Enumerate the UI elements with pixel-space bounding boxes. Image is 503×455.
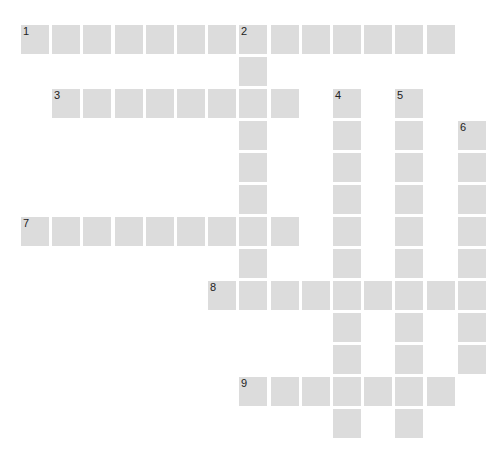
crossword-cell[interactable]: [146, 89, 174, 118]
crossword-cell[interactable]: [333, 345, 361, 374]
crossword-cell[interactable]: [333, 377, 361, 406]
crossword-cell[interactable]: [395, 409, 423, 438]
crossword-cell[interactable]: 5: [395, 89, 423, 118]
crossword-cell[interactable]: [302, 25, 330, 54]
crossword-cell[interactable]: 2: [239, 25, 267, 54]
crossword-cell[interactable]: [364, 281, 392, 310]
crossword-cell[interactable]: [395, 313, 423, 342]
crossword-cell[interactable]: [83, 217, 111, 246]
crossword-cell[interactable]: [177, 25, 205, 54]
crossword-cell[interactable]: [333, 281, 361, 310]
crossword-cell[interactable]: [395, 249, 423, 278]
crossword-cell[interactable]: [83, 89, 111, 118]
crossword-cell[interactable]: 1: [21, 25, 49, 54]
crossword-cell[interactable]: [458, 345, 486, 374]
clue-number: 3: [54, 90, 60, 101]
crossword-cell[interactable]: [364, 25, 392, 54]
crossword-cell[interactable]: [208, 25, 236, 54]
crossword-cell[interactable]: [333, 25, 361, 54]
crossword-cell[interactable]: [395, 377, 423, 406]
clue-number: 4: [335, 90, 341, 101]
crossword-cell[interactable]: [239, 57, 267, 86]
crossword-cell[interactable]: [302, 281, 330, 310]
crossword-cell[interactable]: [239, 89, 267, 118]
crossword-cell[interactable]: [271, 89, 299, 118]
crossword-cell[interactable]: [115, 217, 143, 246]
crossword-cell[interactable]: [333, 217, 361, 246]
crossword-cell[interactable]: [395, 121, 423, 150]
crossword-cell[interactable]: [239, 217, 267, 246]
crossword-cell[interactable]: [115, 25, 143, 54]
crossword-cell[interactable]: [115, 89, 143, 118]
crossword-cell[interactable]: [395, 25, 423, 54]
crossword-cell[interactable]: [177, 217, 205, 246]
crossword-cell[interactable]: [427, 377, 455, 406]
crossword-cell[interactable]: [146, 25, 174, 54]
crossword-cell[interactable]: [333, 153, 361, 182]
crossword-cell[interactable]: [395, 217, 423, 246]
crossword-cell[interactable]: [458, 313, 486, 342]
crossword-cell[interactable]: [239, 281, 267, 310]
clue-number: 7: [23, 218, 29, 229]
crossword-cell[interactable]: [364, 377, 392, 406]
crossword-cell[interactable]: 8: [208, 281, 236, 310]
crossword-cell[interactable]: [395, 185, 423, 214]
crossword-cell[interactable]: [302, 377, 330, 406]
crossword-cell[interactable]: 3: [52, 89, 80, 118]
crossword-cell[interactable]: [395, 345, 423, 374]
crossword-cell[interactable]: [333, 185, 361, 214]
crossword-cell[interactable]: [239, 121, 267, 150]
crossword-cell[interactable]: [271, 281, 299, 310]
crossword-cell[interactable]: [271, 25, 299, 54]
crossword-cell[interactable]: [395, 281, 423, 310]
crossword-cell[interactable]: [333, 313, 361, 342]
crossword-cell[interactable]: [146, 217, 174, 246]
clue-number: 5: [397, 90, 403, 101]
crossword-cell[interactable]: 6: [458, 121, 486, 150]
crossword-cell[interactable]: 4: [333, 89, 361, 118]
crossword-cell[interactable]: [458, 153, 486, 182]
crossword-cell[interactable]: [239, 249, 267, 278]
crossword-cell[interactable]: [208, 89, 236, 118]
crossword-cell[interactable]: 9: [239, 377, 267, 406]
crossword-cell[interactable]: [458, 217, 486, 246]
crossword-cell[interactable]: [52, 217, 80, 246]
crossword-cell[interactable]: [239, 153, 267, 182]
clue-number: 2: [241, 26, 247, 37]
crossword-cell[interactable]: [395, 153, 423, 182]
clue-number: 8: [210, 282, 216, 293]
crossword-grid: 123456789: [0, 0, 503, 455]
crossword-cell[interactable]: 7: [21, 217, 49, 246]
crossword-cell[interactable]: [177, 89, 205, 118]
crossword-cell[interactable]: [83, 25, 111, 54]
crossword-cell[interactable]: [239, 185, 267, 214]
crossword-cell[interactable]: [458, 185, 486, 214]
crossword-cell[interactable]: [458, 249, 486, 278]
clue-number: 1: [23, 26, 29, 37]
crossword-cell[interactable]: [333, 121, 361, 150]
crossword-cell[interactable]: [427, 25, 455, 54]
clue-number: 6: [460, 122, 466, 133]
crossword-cell[interactable]: [458, 281, 486, 310]
clue-number: 9: [241, 378, 247, 389]
crossword-cell[interactable]: [333, 409, 361, 438]
crossword-cell[interactable]: [208, 217, 236, 246]
crossword-cell[interactable]: [271, 377, 299, 406]
crossword-cell[interactable]: [333, 249, 361, 278]
crossword-cell[interactable]: [271, 217, 299, 246]
crossword-cell[interactable]: [427, 281, 455, 310]
crossword-cell[interactable]: [52, 25, 80, 54]
